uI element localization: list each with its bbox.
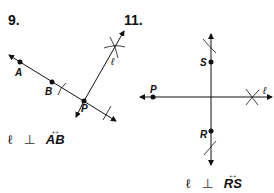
perpendicular-symbol: ⊥	[201, 176, 213, 191]
caption-9: ℓ ⊥ ↔AB	[7, 132, 65, 148]
line-arrow-icon: ↔	[224, 169, 242, 180]
point-label-p: P	[150, 84, 157, 95]
point-label-a: A	[15, 67, 22, 78]
problem-number-11: 11.	[124, 12, 143, 28]
caption-line: ℓ	[185, 176, 191, 191]
line-arrow-icon: ↔	[46, 125, 65, 136]
line-label-l: ℓ	[263, 85, 266, 96]
point-label-r: R	[200, 129, 207, 140]
problem-number-9: 9.	[8, 12, 20, 28]
figure-11	[140, 34, 272, 165]
point-label-b: B	[45, 86, 52, 97]
caption-line: ℓ	[7, 132, 13, 147]
caption-11: ℓ ⊥ ↔RS	[185, 176, 242, 192]
diagram-canvas	[0, 0, 274, 193]
figure-9	[9, 31, 125, 121]
point-label-p: P	[81, 103, 88, 114]
point-label-s: S	[200, 57, 207, 68]
perpendicular-symbol: ⊥	[23, 132, 35, 147]
line-label-l: ℓ	[111, 56, 114, 67]
